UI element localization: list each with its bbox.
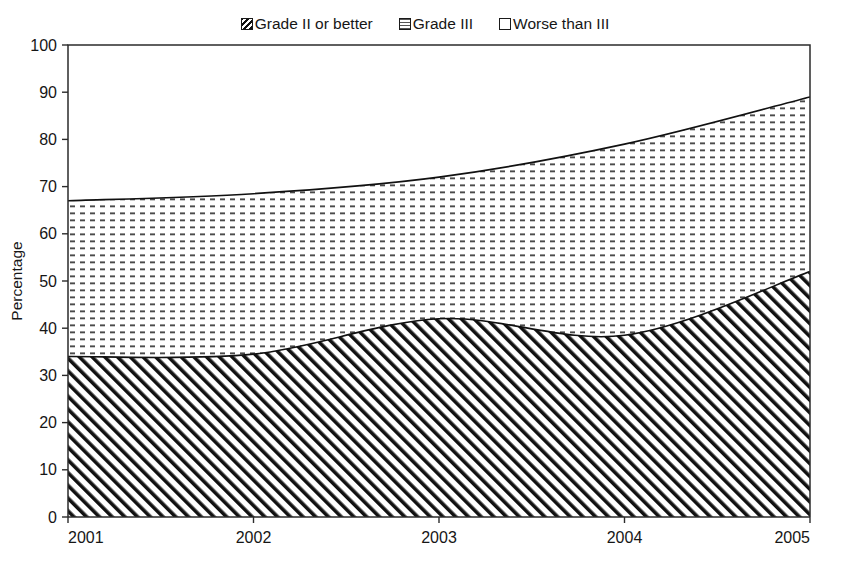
y-axis-tick-label: 50 xyxy=(39,273,57,290)
y-axis-tick-label: 80 xyxy=(39,131,57,148)
x-axis-tick-label: 2001 xyxy=(68,529,104,546)
x-axis-tick-label: 2003 xyxy=(421,529,457,546)
x-axis-tick-label: 2004 xyxy=(607,529,643,546)
chart-canvas: 0102030405060708090100 20012002200320042… xyxy=(0,0,850,568)
area-chart: 0102030405060708090100 20012002200320042… xyxy=(0,0,850,568)
x-axis-tick-label: 2002 xyxy=(236,529,272,546)
y-axis-tick-label: 20 xyxy=(39,414,57,431)
x-axis-ticks: 20012002200320042005 xyxy=(68,517,810,546)
y-axis-tick-label: 0 xyxy=(48,509,57,526)
y-axis-tick-label: 90 xyxy=(39,84,57,101)
y-axis-tick-label: 10 xyxy=(39,461,57,478)
y-axis-tick-label: 30 xyxy=(39,367,57,384)
y-axis-tick-label: 100 xyxy=(30,37,57,54)
y-axis-title: Percentage xyxy=(8,241,25,320)
x-axis-tick-label: 2005 xyxy=(774,529,810,546)
y-axis-tick-label: 70 xyxy=(39,178,57,195)
y-axis-ticks: 0102030405060708090100 xyxy=(30,37,68,526)
y-axis-tick-label: 40 xyxy=(39,320,57,337)
y-axis-tick-label: 60 xyxy=(39,225,57,242)
